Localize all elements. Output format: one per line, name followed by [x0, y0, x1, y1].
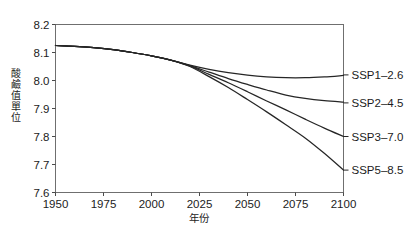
- x-tick-label: 2025: [187, 198, 213, 210]
- x-tick-label: 2000: [139, 198, 165, 210]
- y-tick-label: 8.2: [34, 19, 50, 31]
- y-tick-label: 8.1: [34, 47, 50, 59]
- x-tick-label: 2075: [283, 198, 309, 210]
- series-line-ssp2-4.5: [56, 46, 344, 103]
- series-label-ssp3-7.0: SSP3–7.0: [352, 131, 404, 143]
- series-label-ssp1-2.6: SSP1–2.6: [352, 69, 404, 81]
- x-tick-label: 1950: [43, 198, 69, 210]
- chart-canvas: 7.67.77.87.98.08.18.2 195019752000202520…: [0, 0, 409, 233]
- y-tick-label: 7.8: [34, 131, 50, 143]
- series-labels: SSP1–2.6SSP2–4.5SSP3–7.0SSP5–8.5: [344, 69, 404, 176]
- plot-frame: [56, 25, 344, 193]
- series-line-ssp5-8.5: [56, 46, 344, 171]
- y-tick-label: 7.9: [34, 103, 50, 115]
- series-paths: [56, 46, 344, 171]
- x-tick-label: 1975: [91, 198, 117, 210]
- series-label-ssp2-4.5: SSP2–4.5: [352, 97, 404, 109]
- series-label-ssp5-8.5: SSP5–8.5: [352, 164, 404, 176]
- y-tick-label: 7.7: [34, 159, 50, 171]
- x-axis-title: 年份: [189, 212, 210, 224]
- series-line-ssp1-2.6: [56, 46, 344, 78]
- x-axis-ticks: 1950197520002025205020752100: [43, 193, 357, 210]
- y-axis-ticks: 7.67.77.87.98.08.18.2: [34, 19, 56, 199]
- x-tick-label: 2100: [331, 198, 357, 210]
- y-tick-label: 8.0: [34, 75, 50, 87]
- series-line-ssp3-7.0: [56, 46, 344, 137]
- ph-projection-chart: 酸 鹼 值 單 位 7.67.77.87.98.08.18.2 19501975…: [0, 0, 409, 233]
- x-tick-label: 2050: [235, 198, 261, 210]
